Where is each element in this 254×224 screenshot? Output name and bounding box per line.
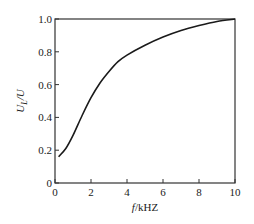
x-tick-label: 2 [88, 186, 94, 198]
plot-frame [55, 19, 235, 183]
y-axis-label: UL/U [14, 88, 29, 112]
y-tick-label: 0.4 [38, 111, 52, 123]
chart: 024681000.20.40.60.81.0f/kHZUL/U [0, 0, 254, 224]
data-curve [59, 19, 235, 157]
x-tick-label: 4 [124, 186, 130, 198]
plot-area: 024681000.20.40.60.81.0f/kHZUL/U [0, 0, 254, 224]
x-tick-label: 8 [196, 186, 202, 198]
x-tick-label: 0 [52, 186, 58, 198]
y-tick-label: 1.0 [38, 13, 52, 25]
y-tick-label: 0.2 [38, 144, 52, 156]
x-tick-label: 6 [160, 186, 166, 198]
x-axis-label: f/kHZ [132, 201, 159, 213]
y-tick-label: 0.8 [38, 46, 52, 58]
y-tick-label: 0 [47, 177, 53, 189]
x-tick-label: 10 [230, 186, 242, 198]
y-tick-label: 0.6 [38, 79, 52, 91]
